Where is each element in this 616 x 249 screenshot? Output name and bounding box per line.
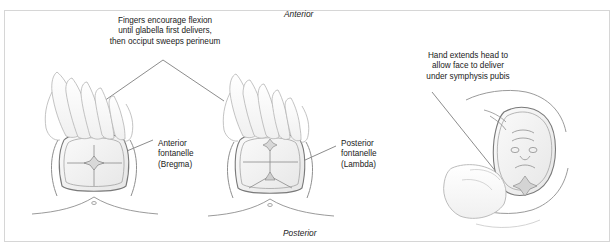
left-anus-mark (92, 202, 97, 205)
orientation-label-posterior: Posterior (283, 228, 317, 238)
middle-clinician-hands (223, 74, 309, 142)
right-lower-shading (476, 220, 540, 227)
middle-perineum-outline (208, 199, 334, 216)
caption-extension: Hand extends head to allow face to deliv… (386, 51, 550, 82)
panel-right-illustration (444, 90, 568, 227)
panel-left-illustration (32, 72, 158, 214)
medical-illustration-figure: Fingers encourage flexion until glabella… (0, 0, 616, 249)
label-anterior-fontanelle: Anterior fontanelle (Bregma) (158, 139, 220, 170)
label-posterior-fontanelle: Posterior fontanelle (Lambda) (341, 139, 405, 170)
leader-line-flexion (104, 60, 224, 101)
panel-middle-illustration (208, 74, 334, 216)
middle-anus-mark (268, 204, 273, 207)
left-clinician-hands (45, 72, 133, 141)
left-perineum-outline (32, 197, 158, 214)
caption-flexion: Fingers encourage flexion until glabella… (78, 16, 252, 47)
orientation-label-anterior: Anterior (284, 9, 313, 19)
